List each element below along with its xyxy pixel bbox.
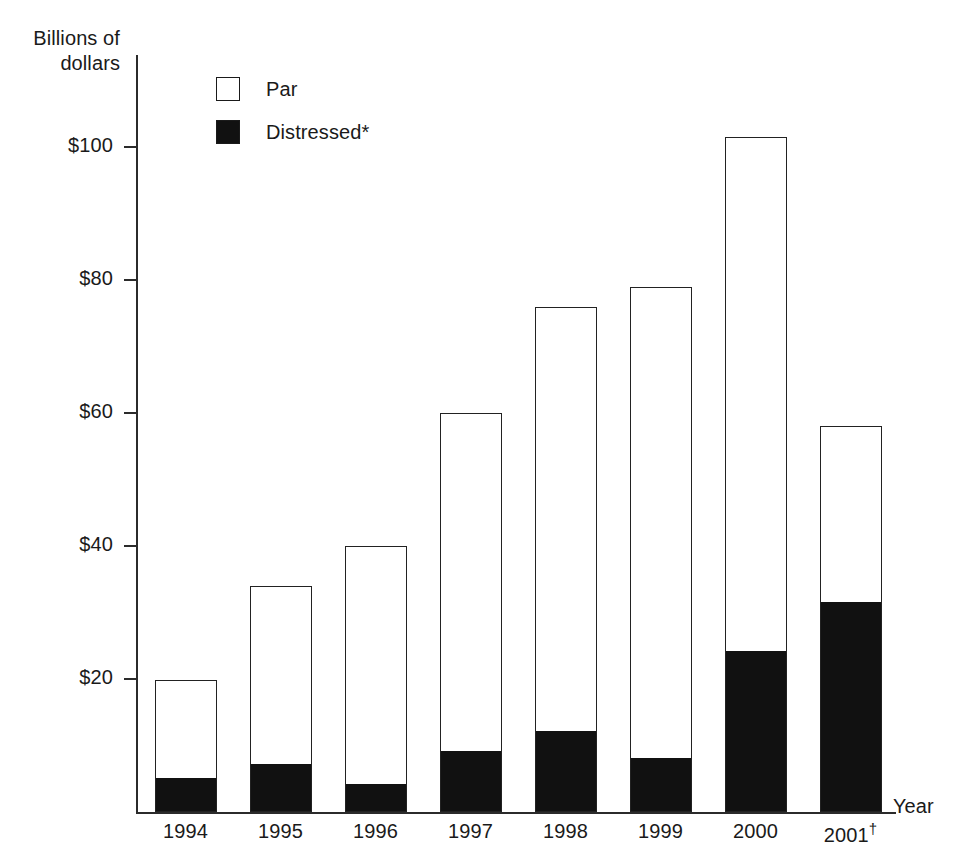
bar-segment-distressed [156,778,216,811]
y-tick-mark [124,146,137,148]
x-axis-line [136,812,896,814]
x-tick-label: 1995 [233,820,328,843]
x-axis-title: Year [893,795,934,818]
stacked-bar-chart: Billions of dollars Year $20$40$60$80$10… [0,0,963,868]
x-tick-label: 1998 [518,820,613,843]
bar-1995 [250,586,312,812]
legend-label-distressed: Distressed* [266,121,369,144]
y-tick-label: $40 [8,533,113,556]
bar-1994 [155,680,217,812]
bar-segment-distressed [631,758,691,811]
x-tick-label: 2000 [708,820,803,843]
x-tick-label: 1999 [613,820,708,843]
bar-2000 [725,137,787,812]
bar-segment-distressed [441,751,501,811]
y-tick-label: $80 [8,267,113,290]
x-tick-label: 1997 [423,820,518,843]
y-tick-mark [124,545,137,547]
y-axis-title: Billions of dollars [10,26,120,76]
bar-1999 [630,287,692,812]
bar-1998 [535,307,597,812]
bar-2001 [820,426,882,812]
legend-item-distressed: Distressed* [216,115,369,149]
y-axis-line [136,55,138,813]
x-tick-label: 1994 [138,820,233,843]
y-tick-mark [124,412,137,414]
bar-segment-distressed [726,651,786,811]
y-tick-mark [124,678,137,680]
bar-segment-distressed [346,784,406,811]
legend-swatch-par [216,77,240,101]
legend-swatch-distressed [216,120,240,144]
x-tick-label: 1996 [328,820,423,843]
y-tick-label: $20 [8,666,113,689]
bar-segment-distressed [251,764,311,811]
y-tick-label: $100 [8,134,113,157]
x-tick-label: 2001† [803,820,898,847]
bar-segment-distressed [821,602,881,811]
dagger-footnote-marker: † [869,820,877,837]
legend-label-par: Par [266,78,297,101]
bar-1997 [440,413,502,812]
y-tick-mark [124,279,137,281]
bar-segment-distressed [536,731,596,811]
legend-item-par: Par [216,72,369,106]
chart-legend: Par Distressed* [216,72,369,158]
bar-1996 [345,546,407,812]
y-tick-label: $60 [8,400,113,423]
